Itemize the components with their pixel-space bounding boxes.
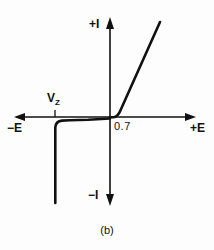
axis-label-plus-i: +I — [89, 18, 99, 30]
zener-voltage-label: VZ — [47, 92, 60, 107]
axis-arrow-up-icon — [106, 17, 114, 29]
axis-label-plus-e: +E — [190, 122, 205, 134]
zener-voltage-symbol: V — [47, 91, 55, 105]
axis-label-minus-e: −E — [7, 122, 22, 134]
axis-arrow-right-icon — [185, 113, 196, 121]
zener-voltage-subscript: Z — [55, 98, 60, 107]
forward-conduction-curve — [110, 22, 160, 117]
axis-arrow-left-icon — [14, 113, 25, 121]
zener-breakdown-curve — [55, 119, 110, 204]
forward-knee-label: 0.7 — [114, 121, 131, 132]
vertical-axis — [106, 17, 114, 206]
figure-caption: (b) — [0, 224, 214, 236]
figure-container: +I −I +E −E VZ 0.7 (b) — [0, 0, 214, 250]
axis-label-minus-i: −I — [88, 189, 98, 201]
axis-arrow-down-icon — [106, 194, 114, 206]
iv-characteristic-plot — [0, 0, 214, 250]
